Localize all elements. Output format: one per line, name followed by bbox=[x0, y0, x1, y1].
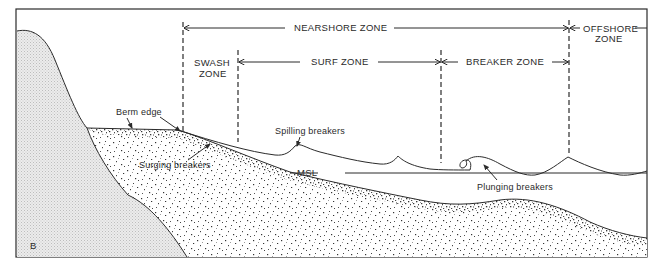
panel-label: B bbox=[30, 240, 37, 251]
surf-zone-label: SURF ZONE bbox=[311, 56, 369, 67]
breaker-zone-label: BREAKER ZONE bbox=[466, 56, 544, 67]
nearshore-zone-diagram: NEARSHORE ZONE OFFSHORE ZONE SWASH ZONE … bbox=[0, 0, 667, 272]
swash-zone-label-line2: ZONE bbox=[199, 68, 227, 79]
swash-zone-label-line1: SWASH bbox=[194, 57, 230, 68]
nearshore-zone-label: NEARSHORE ZONE bbox=[294, 22, 387, 33]
surging-breakers-label: Surging breakers bbox=[139, 160, 211, 170]
berm-edge-label: Berm edge bbox=[116, 107, 162, 117]
spilling-breakers-label: Spilling breakers bbox=[275, 126, 345, 136]
plunging-breakers-label: Plunging breakers bbox=[477, 182, 553, 192]
msl-label: MSL bbox=[297, 167, 317, 178]
offshore-zone-label-line2: ZONE bbox=[595, 33, 623, 44]
